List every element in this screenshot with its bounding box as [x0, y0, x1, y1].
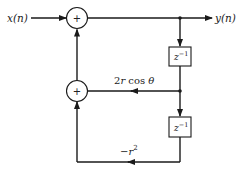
adder-top: +: [67, 8, 88, 29]
delay-block-2: z−1: [169, 117, 191, 137]
gain-neg-r-squared: −r2: [120, 144, 138, 157]
plus-symbol: +: [73, 13, 81, 24]
signal-flow-diagram: x(n) + y(n) z−1 2r cos θ + z−1 −r2: [0, 0, 245, 171]
output-label: y(n): [214, 12, 236, 24]
input-label: x(n): [7, 12, 28, 24]
delay-block-1: z−1: [169, 47, 191, 66]
plus-symbol: +: [73, 86, 81, 97]
gain-2r-cos-theta: 2r cos θ: [114, 75, 154, 86]
adder-bottom: +: [67, 81, 88, 102]
